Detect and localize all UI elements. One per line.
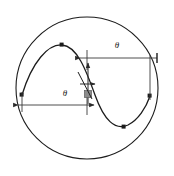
spline-point-trough[interactable] — [122, 125, 126, 129]
upper-dimension-label: θ — [115, 40, 120, 50]
spline-point-peak[interactable] — [60, 43, 64, 47]
lower-dimension-label: θ — [63, 88, 68, 98]
boundary-circle[interactable] — [16, 17, 158, 159]
cad-sketch-viewport[interactable]: θ θ — [0, 0, 174, 176]
sketch-drawing-area[interactable]: θ θ — [0, 0, 174, 176]
